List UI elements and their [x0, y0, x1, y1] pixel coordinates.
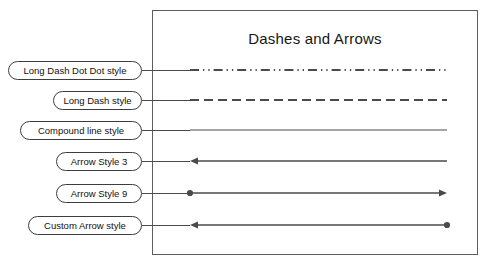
dot-marker	[187, 190, 193, 196]
arrowhead-marker	[190, 222, 198, 229]
callout-label-text: Arrow Style 3	[71, 156, 128, 166]
arrowhead-marker	[190, 158, 198, 165]
line-sample-4-solid	[180, 153, 457, 169]
callout-label-text: Long Dash Dot Dot style	[24, 65, 127, 75]
callout-label-5[interactable]: Arrow Style 9	[56, 184, 142, 203]
callout-label-text: Arrow Style 9	[71, 188, 128, 198]
line-sample-2-long-dash	[180, 92, 457, 108]
callout-label-6[interactable]: Custom Arrow style	[28, 216, 142, 235]
dot-marker	[444, 222, 450, 228]
line-sample-3-solid	[180, 122, 457, 138]
line-sample-6-solid	[180, 217, 457, 233]
figure-title: Dashes and Arrows	[152, 30, 478, 47]
line-sample-1-long-dash-dot-dot	[180, 62, 457, 78]
line-sample-5-solid	[180, 185, 457, 201]
arrowhead-marker	[439, 190, 447, 197]
callout-label-2[interactable]: Long Dash style	[53, 91, 142, 110]
callout-label-text: Compound line style	[38, 125, 124, 135]
callout-label-3[interactable]: Compound line style	[20, 121, 142, 140]
figure-canvas: Dashes and Arrows Long Dash Dot Dot styl…	[0, 0, 492, 263]
callout-label-4[interactable]: Arrow Style 3	[56, 152, 142, 171]
callout-label-text: Custom Arrow style	[44, 220, 126, 230]
callout-label-1[interactable]: Long Dash Dot Dot style	[8, 61, 142, 80]
callout-label-text: Long Dash style	[63, 95, 131, 105]
